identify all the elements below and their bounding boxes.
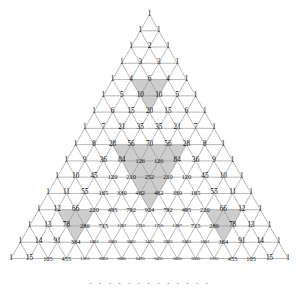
binomial-value: 1 xyxy=(259,206,263,213)
binomial-value: 15 xyxy=(26,255,33,262)
binomial-value: 1365 xyxy=(210,256,219,261)
binomial-value: 330 xyxy=(117,190,127,196)
binomial-value: 715 xyxy=(191,223,201,229)
binomial-value: 13 xyxy=(44,222,51,229)
binomial-value: 1 xyxy=(92,108,96,115)
binomial-value: 15 xyxy=(127,108,134,115)
binomial-value: 105 xyxy=(246,255,256,261)
binomial-value: 462 xyxy=(154,190,164,196)
binomial-value: 8 xyxy=(203,141,207,148)
binomial-value: 1 xyxy=(148,11,152,18)
binomial-value: 2002 xyxy=(182,240,191,245)
binomial-value: 15 xyxy=(266,255,273,262)
binomial-value: 35 xyxy=(155,125,162,132)
binomial-value: 1 xyxy=(157,27,161,34)
binomial-value: 105 xyxy=(43,255,53,261)
ellipsis-row: . . . . . . . . . . . . . xyxy=(0,277,300,286)
binomial-value: 55 xyxy=(81,190,88,197)
binomial-value: 1 xyxy=(231,157,235,164)
binomial-value: 36 xyxy=(192,157,199,164)
binomial-value: 165 xyxy=(99,190,109,196)
binomial-value: 1 xyxy=(74,141,78,148)
binomial-value: 1 xyxy=(55,174,59,181)
binomial-value: 792 xyxy=(126,206,136,212)
binomial-value: 2 xyxy=(148,43,152,50)
binomial-value: 12 xyxy=(238,206,245,213)
binomial-value: 1 xyxy=(28,222,32,229)
binomial-value: 1001 xyxy=(200,240,209,245)
pascal-triangle-figure: 1111211331146411510105116152015611721353… xyxy=(0,0,300,290)
binomial-value: 1 xyxy=(194,92,198,99)
binomial-value: 3003 xyxy=(99,256,108,261)
binomial-value: 1287 xyxy=(117,224,126,229)
binomial-value: 3003 xyxy=(191,256,200,261)
binomial-value: 1 xyxy=(120,60,124,67)
binomial-value: 3003 xyxy=(126,240,135,245)
binomial-value: 9 xyxy=(83,157,87,164)
binomial-value: 1 xyxy=(37,206,41,213)
binomial-value: 220 xyxy=(200,206,210,212)
binomial-value: 3003 xyxy=(163,240,172,245)
binomial-value: 6 xyxy=(148,76,152,83)
binomial-value: 55 xyxy=(211,190,218,197)
binomial-value: 1716 xyxy=(154,224,163,229)
binomial-value: 78 xyxy=(63,222,70,229)
binomial-value: 70 xyxy=(146,141,153,148)
binomial-value: 364 xyxy=(71,239,81,245)
binomial-value: 6435 xyxy=(136,256,145,261)
binomial-value: 14 xyxy=(257,239,264,246)
binomial-value: 84 xyxy=(174,157,181,164)
binomial-value: 2002 xyxy=(108,240,117,245)
binomial-value: 10 xyxy=(155,92,162,99)
binomial-value: 4 xyxy=(166,76,170,83)
binomial-value: 10 xyxy=(72,174,79,181)
binomial-value: 1 xyxy=(277,239,281,246)
binomial-value: 78 xyxy=(229,222,236,229)
binomial-value: 1 xyxy=(18,239,22,246)
binomial-value: 1287 xyxy=(173,224,182,229)
binomial-value: 1 xyxy=(175,60,179,67)
binomial-value: 66 xyxy=(220,206,227,213)
binomial-value: 1 xyxy=(212,125,216,132)
binomial-value: 11 xyxy=(63,190,70,197)
binomial-value: 14 xyxy=(35,239,42,246)
binomial-value: 20 xyxy=(146,108,153,115)
binomial-value: 8 xyxy=(92,141,96,148)
binomial-value: 455 xyxy=(62,255,72,261)
binomial-value: 56 xyxy=(127,141,134,148)
binomial-value: 11 xyxy=(229,190,236,197)
binomial-value: 36 xyxy=(100,157,107,164)
binomial-value: 3 xyxy=(157,60,161,67)
binomial-value: 91 xyxy=(238,239,245,246)
lattice-lines xyxy=(11,15,288,259)
binomial-value: 21 xyxy=(174,125,181,132)
binomial-value: 715 xyxy=(99,223,109,229)
binomial-value: 220 xyxy=(89,206,99,212)
binomial-value: 6435 xyxy=(154,256,163,261)
binomial-value: 364 xyxy=(219,239,229,245)
binomial-value: 1 xyxy=(222,141,226,148)
binomial-value: 120 xyxy=(182,174,192,180)
binomial-value: 1 xyxy=(102,92,106,99)
binomial-value: 126 xyxy=(135,158,145,164)
binomial-value: 1 xyxy=(185,76,189,83)
binomial-value: 21 xyxy=(118,125,125,132)
binomial-value: 1 xyxy=(166,43,170,50)
binomial-value: 1 xyxy=(9,255,13,262)
binomial-value: 1 xyxy=(268,222,272,229)
binomial-value: 6 xyxy=(185,108,189,115)
binomial-value: 56 xyxy=(164,141,171,148)
binomial-value: 455 xyxy=(228,255,238,261)
binomial-value: 5005 xyxy=(117,256,126,261)
binomial-value: 924 xyxy=(145,206,155,212)
binomial-value: 1 xyxy=(83,125,87,132)
binomial-value: 66 xyxy=(72,206,79,213)
binomial-value: 28 xyxy=(183,141,190,148)
binomial-value: 1 xyxy=(129,43,133,50)
binomial-value: 1 xyxy=(240,174,244,181)
binomial-value: 1 xyxy=(138,27,142,34)
binomial-value: 1 xyxy=(111,76,115,83)
binomial-value: 792 xyxy=(163,206,173,212)
binomial-value: 495 xyxy=(182,206,192,212)
binomial-value: 495 xyxy=(108,206,118,212)
